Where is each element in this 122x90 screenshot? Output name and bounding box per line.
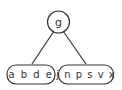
right-child-label: j n p s v x: [55, 69, 115, 80]
edge-root-right: [63, 31, 86, 64]
right-child-node: j n p s v x: [55, 65, 115, 84]
root-node: g: [48, 11, 70, 33]
b-tree-diagram: g a b d e j n p s v x: [0, 0, 122, 90]
left-child-label: a b d e: [8, 69, 53, 80]
edge-root-left: [32, 31, 54, 64]
left-child-node: a b d e: [7, 65, 55, 84]
root-label: g: [55, 16, 62, 29]
